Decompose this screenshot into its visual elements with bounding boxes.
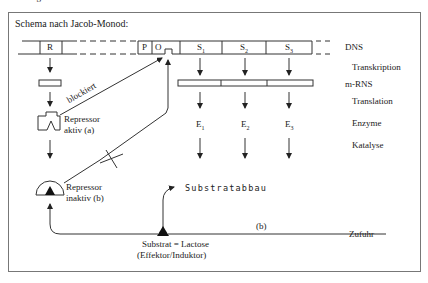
gene-s1-label: S1 [197, 43, 205, 54]
repressor-active-line2: aktiv (a) [64, 126, 94, 135]
repressor-active-shape [38, 112, 60, 130]
label-translation: Translation [352, 97, 393, 106]
repressor-mrna [39, 80, 61, 86]
substratabbau-label: Substratabbau [185, 184, 267, 193]
zufuhr-label: Zufuhr [349, 230, 374, 239]
substrate-triangle-icon [157, 226, 169, 236]
gene-s2-label: S2 [240, 43, 248, 54]
operator-label: O [155, 43, 162, 52]
regulator-gene-label: R [47, 43, 53, 52]
enzyme-e1-label: E1 [196, 120, 205, 131]
path-b-label: (b) [256, 222, 267, 231]
substrate-label-line1: Substrat = Lactose [142, 240, 209, 249]
substrate-label-line2: (Effektor/Induktor) [137, 251, 206, 260]
label-enzyme: Enzyme [352, 119, 382, 128]
repressor-inactive-line1: Repressor [66, 183, 102, 192]
promoter-label: P [142, 43, 147, 52]
repressor-active-line1: Repressor [64, 115, 100, 124]
enzyme-e3-label: E3 [285, 120, 294, 131]
diagram-title: Schema nach Jacob-Monod: [15, 19, 128, 29]
enzyme-e2-label: E2 [241, 120, 250, 131]
label-mrns: m-RNS [345, 80, 373, 89]
label-katalyse: Katalyse [352, 141, 384, 150]
repressor-inactive-line2: inaktiv (b) [66, 194, 104, 203]
gene-s3-label: S3 [285, 43, 293, 54]
label-dns: DNS [345, 43, 363, 52]
mrna-bar [178, 80, 313, 86]
label-transkription: Transkription [352, 63, 401, 72]
